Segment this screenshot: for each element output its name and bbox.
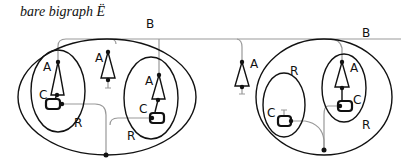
link-c4-bottom <box>324 106 340 150</box>
idle-port-a2 <box>105 82 111 88</box>
ctrl-A5 <box>335 60 349 90</box>
label-C4: C <box>353 93 361 107</box>
ctrl-C1 <box>46 99 64 109</box>
label-A1: A <box>43 60 52 74</box>
label-A2: A <box>95 51 104 65</box>
label-A3: A <box>145 74 154 88</box>
node-right-inner1 <box>263 73 305 137</box>
label-A4: A <box>250 57 259 71</box>
edge-junction-left <box>104 153 109 158</box>
bigraph-diagram: B B A A A A A C C C C R R R R <box>0 0 401 167</box>
label-C3: C <box>267 106 275 120</box>
label-R4: R <box>362 118 370 132</box>
edge-junction-right <box>322 148 327 153</box>
ctrl-C3 <box>278 116 293 126</box>
label-C1: C <box>39 88 47 102</box>
link-a4-top <box>237 39 242 62</box>
label-root-right: B <box>362 26 370 40</box>
label-root-left: B <box>146 17 154 31</box>
label-R3: R <box>290 64 298 78</box>
label-R2: R <box>127 129 135 143</box>
node-left-inner2 <box>124 57 178 139</box>
label-C2: C <box>139 102 147 116</box>
label-R1: R <box>74 116 82 130</box>
ctrl-A1 <box>51 60 64 97</box>
link-c3-bottom <box>290 121 324 150</box>
ctrl-A4 <box>235 60 249 89</box>
ctrl-C2 <box>150 113 164 123</box>
ctrl-C4 <box>338 101 352 111</box>
link-a5-top <box>330 39 342 62</box>
link-c2-bottom <box>110 118 152 125</box>
label-A5: A <box>350 61 359 75</box>
ctrl-A3 <box>152 73 165 102</box>
